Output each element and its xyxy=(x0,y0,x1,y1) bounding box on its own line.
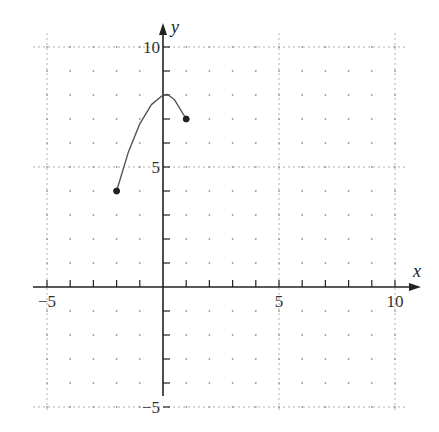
grid-dot xyxy=(255,334,257,336)
grid-dot xyxy=(69,382,71,384)
grid-dot xyxy=(185,334,187,336)
grid-dot xyxy=(278,70,280,72)
grid-dot xyxy=(325,382,327,384)
grid-dot xyxy=(232,358,234,360)
grid-dot xyxy=(185,358,187,360)
grid-dot xyxy=(232,238,234,240)
grid-dot xyxy=(232,118,234,120)
grid-dot xyxy=(69,358,71,360)
grid-dot xyxy=(185,406,187,408)
grid-dot xyxy=(93,382,95,384)
grid-dot xyxy=(69,70,71,72)
grid-dot xyxy=(46,70,48,72)
grid-dot xyxy=(325,94,327,96)
grid-dot xyxy=(185,262,187,264)
grid-dot xyxy=(325,142,327,144)
grid-dot xyxy=(185,214,187,216)
grid-dot xyxy=(255,382,257,384)
grid-dot xyxy=(394,70,396,72)
grid-dot xyxy=(46,406,48,408)
grid-dot xyxy=(371,406,373,408)
grid-dot xyxy=(371,334,373,336)
grid-dot xyxy=(139,214,141,216)
grid-dot xyxy=(255,262,257,264)
grid-dot xyxy=(255,166,257,168)
grid-dot xyxy=(116,118,118,120)
grid-dot xyxy=(185,166,187,168)
grid-dot xyxy=(301,94,303,96)
grid-dot xyxy=(116,46,118,48)
grid-dot xyxy=(46,166,48,168)
grid-dot xyxy=(93,70,95,72)
grid-dot xyxy=(348,238,350,240)
grid-dot xyxy=(325,358,327,360)
grid-dot xyxy=(69,238,71,240)
grid-dot xyxy=(325,334,327,336)
grid-dot xyxy=(301,190,303,192)
grid-dot xyxy=(348,334,350,336)
grid-dot xyxy=(371,190,373,192)
grid-dot xyxy=(116,94,118,96)
grid-dot xyxy=(116,310,118,312)
grid-dot xyxy=(371,46,373,48)
grid-dot xyxy=(301,46,303,48)
grid-dot xyxy=(232,190,234,192)
grid-dot xyxy=(139,262,141,264)
grid-dot xyxy=(301,382,303,384)
grid-dot xyxy=(255,310,257,312)
grid-dot xyxy=(139,238,141,240)
grid-dot xyxy=(232,142,234,144)
grid-dot xyxy=(209,214,211,216)
grid-dot xyxy=(371,94,373,96)
grid-dot xyxy=(46,46,48,48)
grid-dot xyxy=(232,334,234,336)
grid-dot xyxy=(371,262,373,264)
grid-dot xyxy=(139,118,141,120)
x-axis-label: x xyxy=(412,261,421,281)
grid-dot xyxy=(69,190,71,192)
y-tick-label: 10 xyxy=(143,38,160,57)
grid-dot xyxy=(209,382,211,384)
grid-dot xyxy=(255,46,257,48)
grid-dot xyxy=(93,214,95,216)
grid-dot xyxy=(209,190,211,192)
grid-dot xyxy=(185,70,187,72)
grid-dot xyxy=(348,214,350,216)
grid-dot xyxy=(116,358,118,360)
grid-dot xyxy=(255,358,257,360)
grid-dot xyxy=(185,142,187,144)
grid-dot xyxy=(209,262,211,264)
grid-dot xyxy=(93,118,95,120)
grid-dot xyxy=(255,70,257,72)
grid-dot xyxy=(348,382,350,384)
grid-dot xyxy=(209,310,211,312)
grid-dot xyxy=(255,238,257,240)
grid-dot xyxy=(301,238,303,240)
grid-dot xyxy=(371,358,373,360)
grid-dot xyxy=(301,214,303,216)
grid-dot xyxy=(116,166,118,168)
grid-dot xyxy=(93,142,95,144)
grid-dot xyxy=(232,70,234,72)
grid-dot xyxy=(116,238,118,240)
grid-dot xyxy=(301,118,303,120)
grid-dot xyxy=(232,262,234,264)
grid-dot xyxy=(209,238,211,240)
grid-dot xyxy=(116,70,118,72)
grid-dot xyxy=(255,94,257,96)
grid-dot xyxy=(371,238,373,240)
grid-dot xyxy=(348,190,350,192)
x-tick-label: 10 xyxy=(387,292,404,311)
grid-dot xyxy=(348,118,350,120)
grid-dot xyxy=(46,190,48,192)
grid-dot xyxy=(185,310,187,312)
grid-dot xyxy=(93,94,95,96)
grid-dot xyxy=(232,214,234,216)
grid-dot xyxy=(255,190,257,192)
grid-dot xyxy=(301,142,303,144)
grid-dot xyxy=(255,118,257,120)
grid-dot xyxy=(93,358,95,360)
grid-dot xyxy=(301,70,303,72)
grid-dot xyxy=(301,406,303,408)
grid-dot xyxy=(348,70,350,72)
